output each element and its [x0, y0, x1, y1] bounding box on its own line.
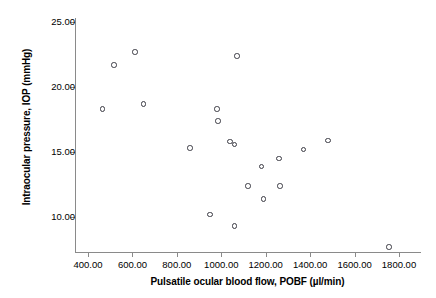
data-point: [214, 106, 219, 111]
scatter-plot-figure: Intraocular pressure, IOP (mmHg) Pulsati…: [0, 0, 436, 298]
y-tick-label: 25.00: [31, 17, 75, 27]
data-point: [187, 145, 192, 150]
y-tick-label: 20.00: [31, 82, 75, 92]
data-point: [141, 101, 146, 106]
data-point: [100, 106, 105, 111]
data-point: [111, 62, 116, 67]
data-point: [234, 53, 239, 58]
data-point: [277, 183, 282, 188]
x-tick-mark: [310, 252, 311, 257]
data-point: [276, 156, 281, 161]
x-tick-mark: [221, 252, 222, 257]
data-point: [207, 212, 212, 217]
data-point: [325, 138, 330, 143]
data-point: [259, 164, 264, 169]
x-tick-mark: [399, 252, 400, 257]
data-point: [245, 183, 250, 188]
x-tick-mark: [132, 252, 133, 257]
data-point: [232, 142, 237, 147]
data-point: [215, 118, 220, 123]
x-tick-mark: [355, 252, 356, 257]
data-point: [301, 147, 306, 152]
y-tick-label-wrap: 20.00: [20, 82, 75, 92]
y-tick-label: 15.00: [31, 147, 75, 157]
data-point: [232, 223, 237, 228]
y-tick-label: 10.00: [31, 212, 75, 222]
x-tick-mark: [88, 252, 89, 257]
x-axis-line: [75, 252, 421, 253]
x-tick-label-wrap: 1800.00: [369, 259, 429, 271]
data-point: [261, 196, 266, 201]
data-point: [132, 49, 137, 54]
y-tick-label-wrap: 10.00: [20, 212, 75, 222]
data-point: [386, 244, 391, 249]
y-tick-label-wrap: 15.00: [20, 147, 75, 157]
x-axis-title: Pulsatile ocular blood flow, POBF (µl/mi…: [75, 276, 420, 287]
x-tick-mark: [266, 252, 267, 257]
x-tick-mark: [177, 252, 178, 257]
y-axis-line: [75, 18, 76, 253]
y-tick-label-wrap: 25.00: [20, 17, 75, 27]
data-point: [227, 139, 232, 144]
x-tick-label: 1800.00: [369, 259, 429, 271]
